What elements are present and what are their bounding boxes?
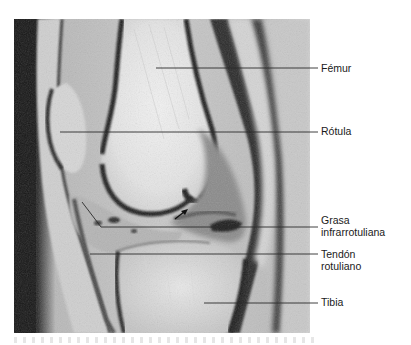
label-grasa-infrarrotuliana: Grasa infrarrotuliana bbox=[321, 215, 385, 238]
label-rotula: Rótula bbox=[321, 126, 351, 138]
label-tibia: Tibia bbox=[321, 297, 343, 309]
mri-figure: Fémur Rótula Grasa infrarrotuliana Tendó… bbox=[0, 0, 411, 345]
cropped-caption-text bbox=[14, 337, 314, 343]
label-femur: Fémur bbox=[321, 63, 351, 75]
label-tendon-rotuliano: Tendón rotuliano bbox=[321, 249, 361, 272]
mri-rendering bbox=[14, 19, 310, 333]
knee-mri-image bbox=[14, 19, 310, 333]
